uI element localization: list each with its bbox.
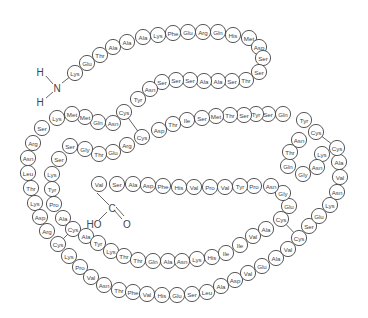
residue-label: Ala xyxy=(335,159,345,166)
residue-label: Ser xyxy=(304,223,314,230)
residue-his: His xyxy=(154,287,169,302)
residue-lys: Lys xyxy=(150,27,165,42)
residue-label: Val xyxy=(143,291,151,298)
residue-val: Val xyxy=(217,179,232,194)
residue-label: Val xyxy=(221,184,229,191)
residue-glu: Glu xyxy=(79,55,94,70)
residue-label: Glu xyxy=(257,263,267,270)
residue-ala: Ala xyxy=(125,176,140,191)
residue-ser: Ser xyxy=(51,151,66,166)
residue-phe: Phe xyxy=(155,178,170,193)
residue-ser: Ser xyxy=(62,138,77,153)
residue-leu: Leu xyxy=(199,284,214,299)
residue-gln: Gln xyxy=(280,158,295,173)
residue-label: Gln xyxy=(93,119,103,126)
c-terminus-o: O xyxy=(123,219,131,230)
residue-label: Asn xyxy=(332,189,343,196)
residue-pro: Pro xyxy=(46,196,61,211)
residue-leu: Leu xyxy=(20,165,35,180)
residue-label: Asn xyxy=(266,183,277,190)
residue-label: Met xyxy=(67,111,78,118)
residue-gly: Gly xyxy=(77,141,92,156)
residue-cys: Cys xyxy=(291,230,306,245)
residue-tyr: Tyr xyxy=(232,178,247,193)
residue-label: Val xyxy=(95,181,103,188)
residue-label: Asp xyxy=(143,182,154,189)
residue-asn: Asn xyxy=(20,150,35,165)
residue-lys: Lys xyxy=(44,166,59,181)
residue-ser: Ser xyxy=(224,73,239,88)
residue-label: Tyr xyxy=(236,183,245,190)
residue-glu: Glu xyxy=(169,287,184,302)
residue-lys: Lys xyxy=(189,251,204,266)
residue-label: Phe xyxy=(127,289,139,296)
residue-val: Val xyxy=(240,265,255,280)
residue-label: Asn xyxy=(312,164,323,171)
residue-label: Cys xyxy=(294,235,305,242)
residue-label: Val xyxy=(190,184,198,191)
residue-val: Val xyxy=(186,179,201,194)
residue-label: Glu xyxy=(172,292,182,299)
residue-label: Thr xyxy=(168,121,177,128)
residue-label: Ser xyxy=(65,143,75,150)
n-h-bond-bottom xyxy=(46,92,53,98)
residue-arg: Arg xyxy=(195,24,210,39)
residue-thr: Thr xyxy=(130,252,145,267)
residue-thr: Thr xyxy=(222,107,237,122)
residue-ser: Ser xyxy=(182,72,197,87)
residue-label: Cys xyxy=(332,145,343,152)
residue-label: Lys xyxy=(106,248,115,255)
residue-label: Ala xyxy=(129,181,139,188)
residue-label: Cys xyxy=(276,216,287,223)
residue-lys: Lys xyxy=(27,195,42,210)
residue-label: Asn xyxy=(294,137,305,144)
residue-arg: Arg xyxy=(119,137,134,152)
residue-glu: Glu xyxy=(180,24,195,39)
residue-label: Ser xyxy=(187,291,197,298)
residue-ser: Ser xyxy=(109,176,124,191)
residue-label: Val xyxy=(249,233,257,240)
residue-lys: Lys xyxy=(49,110,64,125)
residue-label: Arg xyxy=(28,140,38,147)
residue-label: Tyr xyxy=(134,96,143,103)
residue-label: His xyxy=(175,184,184,191)
residue-pro: Pro xyxy=(246,178,261,193)
residue-ile: Ile xyxy=(179,112,194,127)
residue-arg: Arg xyxy=(39,223,54,238)
residue-label: Thr xyxy=(114,287,123,294)
residue-label: Asn xyxy=(177,258,188,265)
residue-label: Ser xyxy=(258,55,268,62)
residue-label: Ser xyxy=(112,181,122,188)
residue-label: Asn xyxy=(23,155,34,162)
residue-ala: Ala xyxy=(196,73,211,88)
residue-asn: Asn xyxy=(291,132,306,147)
residue-gln: Gln xyxy=(145,253,160,268)
residue-ser: Ser xyxy=(255,50,270,65)
residue-label: Gln xyxy=(213,29,223,36)
residue-label: Leu xyxy=(23,170,34,177)
residue-label: Asn xyxy=(145,86,156,93)
residue-cys: Cys xyxy=(134,129,149,144)
residue-thr: Thr xyxy=(23,180,38,195)
residue-ala: Ala xyxy=(213,278,228,293)
residue-label: Arg xyxy=(198,29,208,36)
residue-label: Thr xyxy=(285,149,294,156)
c-terminus: HO C O xyxy=(87,193,132,230)
residue-label: Cys xyxy=(119,109,130,116)
residue-asn: Asn xyxy=(309,159,324,174)
residue-pro: Pro xyxy=(202,179,217,194)
residue-label: Thr xyxy=(241,77,250,84)
residue-label: Glu xyxy=(82,60,92,67)
residue-label: Asp xyxy=(230,277,241,284)
residue-label: Tyr xyxy=(252,111,261,118)
residue-label: Val xyxy=(244,270,252,277)
residue-label: Thr xyxy=(95,52,104,59)
residue-label: His xyxy=(208,254,217,261)
residue-label: Thr xyxy=(133,257,142,264)
residue-ala: Ala xyxy=(210,73,225,88)
residue-label: Tyr xyxy=(300,117,309,124)
residue-label: Gly xyxy=(298,171,308,178)
residue-label: Ala xyxy=(217,283,227,290)
residue-tyr: Tyr xyxy=(130,91,145,106)
residue-label: Glu xyxy=(108,149,118,156)
